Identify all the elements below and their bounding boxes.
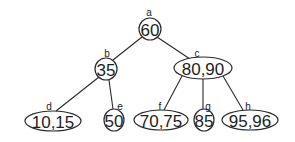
edge-c-h xyxy=(223,76,243,110)
node-value: 10,15 xyxy=(32,113,75,132)
nodes-group: 60a35b80,90c10,15d50e70,75f85g95,96h xyxy=(25,7,278,132)
node-value: 70,75 xyxy=(140,112,183,131)
tree-node-a: 60a xyxy=(139,7,161,41)
tree-node-c: 80,90c xyxy=(174,48,232,80)
tree-node-h: 95,96h xyxy=(222,101,278,131)
tree-diagram: 60a35b80,90c10,15d50e70,75f85g95,96h xyxy=(0,0,295,142)
node-value: 80,90 xyxy=(182,60,225,79)
node-value: 85 xyxy=(195,112,214,131)
node-value: 60 xyxy=(141,21,160,40)
edge-b-e xyxy=(109,80,113,109)
node-label: c xyxy=(195,48,200,59)
tree-node-e: 50e xyxy=(104,101,124,132)
node-label: a xyxy=(146,7,152,18)
edge-c-f xyxy=(164,76,182,110)
tree-node-g: 85g xyxy=(194,101,214,132)
tree-svg: 60a35b80,90c10,15d50e70,75f85g95,96h xyxy=(0,0,295,142)
node-label: d xyxy=(46,101,52,112)
node-label: f xyxy=(159,101,162,112)
edge-b-d xyxy=(56,77,99,111)
node-label: b xyxy=(104,48,110,59)
node-value: 95,96 xyxy=(229,112,272,131)
tree-node-d: 10,15d xyxy=(25,101,81,132)
node-value: 50 xyxy=(105,112,124,131)
node-label: h xyxy=(245,101,251,112)
edge-a-b xyxy=(113,37,142,60)
node-label: g xyxy=(205,101,211,112)
tree-node-b: 35b xyxy=(95,48,117,81)
edge-a-c xyxy=(157,37,190,59)
node-label: e xyxy=(117,101,123,112)
tree-node-f: 70,75f xyxy=(134,101,188,131)
node-value: 35 xyxy=(97,61,116,80)
